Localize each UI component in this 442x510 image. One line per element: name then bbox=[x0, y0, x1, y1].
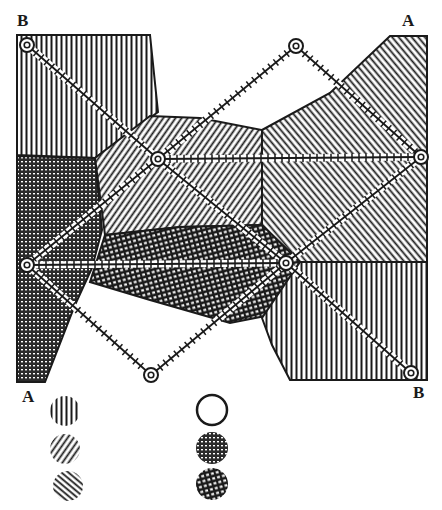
legend-dense-crosshatch-icon bbox=[196, 432, 228, 464]
label-a-bottom-left: A bbox=[22, 388, 34, 405]
point-marker-icon bbox=[289, 39, 303, 53]
legend-diagonal-right-hatch-icon bbox=[50, 434, 80, 464]
label-b-bottom-right: B bbox=[413, 384, 424, 401]
point-marker-icon bbox=[20, 258, 34, 272]
point-marker-icon bbox=[20, 38, 34, 52]
point-marker-icon bbox=[144, 368, 158, 382]
point-marker-icon bbox=[279, 256, 293, 270]
point-marker-icon bbox=[404, 366, 418, 380]
legend-open-crosshatch-icon bbox=[196, 468, 228, 500]
label-a-top-right: A bbox=[402, 12, 414, 29]
point-marker-icon bbox=[414, 150, 428, 164]
point-marker-icon bbox=[151, 152, 165, 166]
legend-empty-circle-icon bbox=[197, 395, 227, 425]
region-top-right-diagonal bbox=[262, 36, 427, 262]
label-b-top-left: B bbox=[17, 12, 28, 29]
diagram-figure bbox=[0, 0, 442, 510]
legend-vertical-hatch-icon bbox=[50, 396, 80, 426]
legend-diagonal-left-hatch-icon bbox=[53, 471, 83, 501]
legend bbox=[50, 395, 228, 501]
